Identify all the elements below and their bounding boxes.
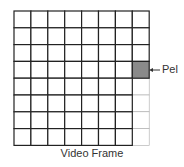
grid-cell xyxy=(82,28,99,45)
grid-cell xyxy=(99,61,116,78)
pel-label: Pel xyxy=(162,63,178,75)
grid-cell xyxy=(82,11,99,28)
grid-cell xyxy=(99,95,116,112)
grid-cell xyxy=(82,129,99,146)
grid-cell xyxy=(82,45,99,62)
grid-cell xyxy=(48,95,65,112)
grid-cell xyxy=(65,95,82,112)
grid-cell xyxy=(65,28,82,45)
grid-cell xyxy=(132,78,149,95)
grid-cell xyxy=(31,112,48,129)
grid-cell xyxy=(31,95,48,112)
grid-cell xyxy=(65,11,82,28)
grid-cell xyxy=(14,95,31,112)
grid-cell xyxy=(115,78,132,95)
grid-cell xyxy=(99,112,116,129)
grid-cell xyxy=(65,129,82,146)
grid-cell xyxy=(82,61,99,78)
grid-cell xyxy=(14,61,31,78)
grid-cell xyxy=(14,112,31,129)
pel-cell xyxy=(132,61,149,78)
grid-cell xyxy=(115,28,132,45)
pixel-grid xyxy=(14,11,149,145)
grid-cell xyxy=(14,11,31,28)
grid-cell xyxy=(48,112,65,129)
grid-cell xyxy=(132,95,149,112)
grid-cell xyxy=(31,11,48,28)
grid-cell xyxy=(82,95,99,112)
grid-cell xyxy=(14,45,31,62)
grid-cell xyxy=(48,11,65,28)
grid-cell xyxy=(48,78,65,95)
grid-cell xyxy=(115,61,132,78)
diagram-caption: Video Frame xyxy=(0,147,184,159)
grid-cell xyxy=(132,112,149,129)
grid-cell xyxy=(65,78,82,95)
grid-cell xyxy=(115,129,132,146)
video-frame-diagram xyxy=(0,0,184,167)
grid-cell xyxy=(99,129,116,146)
grid-cell xyxy=(31,129,48,146)
grid-cell xyxy=(31,78,48,95)
grid-cell xyxy=(14,78,31,95)
grid-cell xyxy=(48,61,65,78)
grid-cell xyxy=(48,28,65,45)
grid-cell xyxy=(31,61,48,78)
grid-cell xyxy=(82,112,99,129)
grid-cell xyxy=(65,45,82,62)
pel-arrow xyxy=(149,68,160,72)
grid-cell xyxy=(115,112,132,129)
grid-cell xyxy=(48,129,65,146)
grid-cell xyxy=(132,129,149,146)
grid-cell xyxy=(14,28,31,45)
grid-cell xyxy=(65,61,82,78)
grid-cell xyxy=(82,78,99,95)
grid-cell xyxy=(14,129,31,146)
grid-cell xyxy=(99,11,116,28)
grid-cell xyxy=(132,45,149,62)
grid-cell xyxy=(31,45,48,62)
grid-cell xyxy=(115,95,132,112)
grid-cell xyxy=(99,78,116,95)
grid-cell xyxy=(99,28,116,45)
grid-cell xyxy=(99,45,116,62)
grid-cell xyxy=(132,28,149,45)
grid-cell xyxy=(132,11,149,28)
grid-cell xyxy=(48,45,65,62)
grid-cell xyxy=(31,28,48,45)
grid-cell xyxy=(115,45,132,62)
grid-cell xyxy=(115,11,132,28)
grid-cell xyxy=(65,112,82,129)
